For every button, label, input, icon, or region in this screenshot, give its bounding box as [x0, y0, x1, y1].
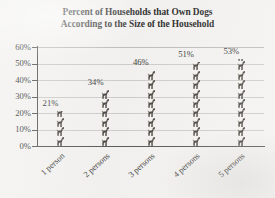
plot-area: [38, 47, 264, 146]
bar-value-label-2: 34%: [88, 78, 104, 87]
bar-value-label-4: 51%: [178, 50, 194, 59]
dog-icon: [191, 118, 202, 127]
x-axis-line: [37, 146, 265, 147]
dog-icon: [146, 127, 157, 136]
dog-icon: [191, 108, 202, 117]
dog-icon: [55, 137, 66, 146]
dog-icon: [191, 71, 202, 80]
dog-icon: [236, 108, 247, 117]
dog-icon: [191, 62, 202, 71]
dog-icon: [236, 71, 247, 80]
gridline-50: [38, 64, 264, 65]
dog-icon: [191, 137, 202, 146]
dog-icon: [191, 99, 202, 108]
bar-value-label-5: 53%: [223, 47, 239, 56]
y-tick-label-30: 30%: [1, 92, 31, 101]
dog-icon: [191, 127, 202, 136]
dog-icon: [236, 80, 247, 89]
dog-icon: [236, 118, 247, 127]
dog-icon: [146, 108, 157, 117]
x-category-label-5: 5 persons: [201, 152, 247, 195]
y-tick-label-50: 50%: [1, 59, 31, 68]
x-category-label-3: 3 persons: [110, 152, 156, 195]
y-tick-label-20: 20%: [1, 109, 31, 118]
bar-4: [191, 62, 202, 146]
dog-icon: [146, 118, 157, 127]
dog-icon: [100, 127, 111, 136]
dog-icon: [236, 127, 247, 136]
dog-icon: [236, 99, 247, 108]
x-category-label-2: 2 persons: [65, 152, 111, 195]
bar-value-label-1: 21%: [43, 99, 59, 108]
y-tick-label-10: 10%: [1, 125, 31, 134]
bar-2: [100, 90, 111, 146]
y-tick-label-40: 40%: [1, 76, 31, 85]
bar-5: [236, 59, 247, 146]
chart-title-line-2: According to the Size of the Household: [0, 19, 275, 31]
dog-icon: [55, 118, 66, 127]
dog-icon: [236, 90, 247, 99]
bar-chart-figure: Percent of Households that Own Dogs Acco…: [0, 0, 275, 198]
dog-icon: [146, 137, 157, 146]
dog-icon: [100, 118, 111, 127]
y-tick-label-60: 60%: [1, 43, 31, 52]
dog-icon: [146, 99, 157, 108]
y-tick-label-0: 0%: [1, 142, 31, 151]
y-axis-tick-labels: 60%50%40%30%20%10%0%: [0, 0, 31, 198]
dog-icon: [146, 80, 157, 89]
x-category-label-4: 4 persons: [156, 152, 202, 195]
dog-icon: [191, 90, 202, 99]
bar-1: [55, 111, 66, 146]
dog-icon: [236, 137, 247, 146]
bar-value-label-3: 46%: [133, 58, 149, 67]
chart-title-line-1: Percent of Households that Own Dogs: [0, 7, 275, 19]
chart-title: Percent of Households that Own Dogs Acco…: [0, 7, 275, 30]
dog-icon: [100, 90, 111, 99]
dog-icon: [100, 108, 111, 117]
dog-icon: [191, 80, 202, 89]
dog-icon: [100, 137, 111, 146]
dog-icon: [146, 90, 157, 99]
dog-icon: [55, 127, 66, 136]
dog-icon: [236, 61, 247, 70]
dog-icon: [100, 99, 111, 108]
bar-3: [146, 70, 157, 146]
dog-icon: [146, 71, 157, 80]
